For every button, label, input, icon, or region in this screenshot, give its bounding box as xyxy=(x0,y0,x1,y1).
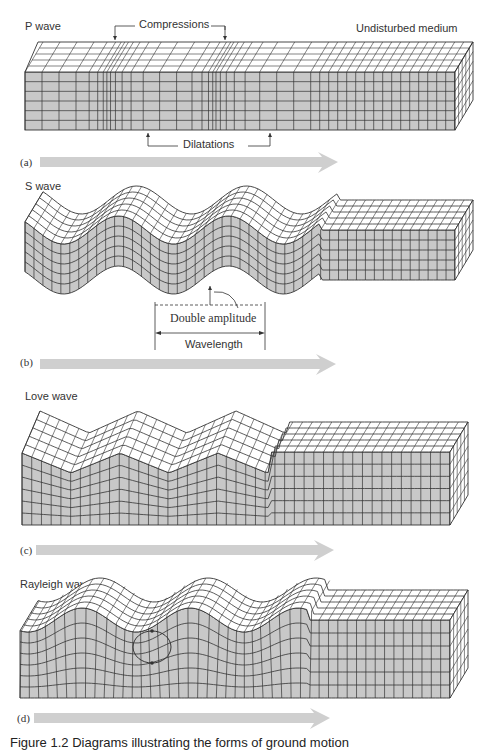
love-wave-block-diagram xyxy=(0,380,493,570)
panel-s-wave: S wave Double amplitude Wavelength (b) xyxy=(0,180,493,375)
p-wave-block-diagram xyxy=(0,0,493,185)
dilatations-label: Dilatations xyxy=(181,138,236,150)
panel-p-wave: P wave Undisturbed medium Compressions D… xyxy=(0,0,493,185)
panel-letter: (c) xyxy=(20,544,32,556)
rayleigh-wave-block-diagram xyxy=(0,570,493,740)
panel-letter: (d) xyxy=(17,712,30,724)
panel-love-wave: Love wave (c) xyxy=(0,380,493,570)
panel-rayleigh-wave: Rayleigh wave (d) xyxy=(0,570,493,740)
figure-caption: Figure 1.2 Diagrams illustrating the for… xyxy=(10,735,349,750)
double-amplitude-label: Double amplitude xyxy=(168,311,258,326)
s-wave-block-diagram xyxy=(0,180,493,375)
compressions-label: Compressions xyxy=(137,18,211,30)
panel-letter: (b) xyxy=(20,356,33,368)
wavelength-label: Wavelength xyxy=(183,338,245,350)
panel-letter: (a) xyxy=(20,156,32,168)
